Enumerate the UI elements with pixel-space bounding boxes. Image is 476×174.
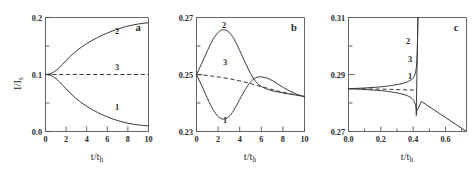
panel-c-curve-label-1: 1 xyxy=(408,72,412,81)
panel-a-curve-1 xyxy=(46,75,149,126)
y-ticklabel: 0.25 xyxy=(179,71,193,80)
x-ticklabel: 10 xyxy=(300,135,308,144)
panel-c-y-ticks xyxy=(349,18,355,132)
y-ticklabel: 0.29 xyxy=(331,71,345,80)
panel-c-curve-tail xyxy=(416,102,466,132)
panel-b-curve-label-2: 2 xyxy=(222,21,226,30)
x-ticklabel: 2 xyxy=(216,135,220,144)
panel-a: 0.2 0.1 0.0 0 2 4 6 8 10 I/Is t xyxy=(12,14,153,165)
svg-text:t/th: t/th xyxy=(401,151,414,164)
panel-b: 0.27 0.25 0.23 0 2 4 6 8 10 t/th 2 3 xyxy=(179,14,309,165)
panel-a-y-axis-label: I/Is xyxy=(12,77,25,90)
x-ticklabel: 6 xyxy=(259,135,263,144)
panel-c-x-ticks xyxy=(349,127,462,132)
panel-c: 0.31 0.29 0.27 0.0 0.2 0.4 0.6 t/th xyxy=(331,14,467,165)
svg-text:t/th: t/th xyxy=(244,151,257,164)
panel-a-curve-label-1: 1 xyxy=(115,103,119,112)
panel-b-curve-3 xyxy=(197,75,305,97)
x-ticklabel: 0 xyxy=(43,135,47,144)
svg-text:t/th: t/th xyxy=(91,151,104,164)
x-ticklabel: 4 xyxy=(85,135,89,144)
panel-a-x-axis-label: t/th xyxy=(91,151,104,164)
panel-b-x-ticks xyxy=(197,127,305,132)
panel-b-curve-2 xyxy=(197,30,305,97)
panel-c-curve-label-3: 3 xyxy=(408,55,412,64)
y-ticklabel: 0.23 xyxy=(179,128,193,137)
panel-c-x-ticklabels: 0.0 0.2 0.4 0.6 xyxy=(343,135,450,144)
x-ticklabel: 10 xyxy=(144,135,152,144)
x-ticklabel: 2 xyxy=(64,135,68,144)
y-ticklabel: 0.31 xyxy=(331,14,345,23)
x-ticklabel: 0 xyxy=(194,135,198,144)
panel-a-letter: a xyxy=(135,22,141,33)
x-ticklabel: 0.0 xyxy=(343,135,353,144)
panel-a-x-ticks xyxy=(46,127,149,132)
x-ticklabel: 8 xyxy=(126,135,130,144)
three-panel-figure: 0.2 0.1 0.0 0 2 4 6 8 10 I/Is t xyxy=(0,0,476,174)
panel-a-y-ticklabels: 0.2 0.1 0.0 xyxy=(32,14,42,137)
panel-b-x-ticklabels: 0 2 4 6 8 10 xyxy=(194,135,308,144)
panel-b-curve-1 xyxy=(197,75,305,120)
panel-a-curve-label-2: 2 xyxy=(115,27,119,36)
panel-c-curve-1 xyxy=(349,89,417,114)
svg-text:I/Is: I/Is xyxy=(12,77,25,90)
x-ticklabel: 0.6 xyxy=(440,135,450,144)
x-ticklabel: 4 xyxy=(238,135,242,144)
panel-c-x-axis-label: t/th xyxy=(401,151,414,164)
panel-b-x-axis-label: t/th xyxy=(244,151,257,164)
y-ticklabel: 0.1 xyxy=(32,71,42,80)
panel-a-curve-label-3: 3 xyxy=(115,63,119,72)
y-ticklabel: 0.2 xyxy=(32,14,42,23)
panel-c-y-ticklabels: 0.31 0.29 0.27 xyxy=(331,14,345,137)
panel-b-curve-label-1: 1 xyxy=(223,116,227,125)
panel-b-letter: b xyxy=(291,22,297,33)
panel-a-x-ticklabels: 0 2 4 6 8 10 xyxy=(43,135,152,144)
y-ticklabel: 0.0 xyxy=(32,128,42,137)
x-ticklabel: 8 xyxy=(281,135,285,144)
x-ticklabel: 6 xyxy=(105,135,109,144)
x-ticklabel: 0.2 xyxy=(376,135,386,144)
panel-b-curve-label-3: 3 xyxy=(223,58,227,67)
y-ticklabel: 0.27 xyxy=(179,14,193,23)
panel-c-curve-label-2: 2 xyxy=(406,37,410,46)
x-ticklabel: 0.4 xyxy=(408,135,418,144)
panel-a-curve-2 xyxy=(46,23,149,75)
panel-b-y-ticklabels: 0.27 0.25 0.23 xyxy=(179,14,193,137)
panel-c-letter: c xyxy=(454,22,459,33)
figure-container: 0.2 0.1 0.0 0 2 4 6 8 10 I/Is t xyxy=(0,0,476,174)
